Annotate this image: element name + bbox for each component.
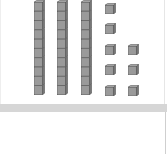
blocks-panel	[0, 0, 165, 104]
unit-cube-block	[105, 20, 116, 31]
unit-cube-block	[128, 61, 139, 72]
unit-cube-block	[105, 41, 116, 52]
tens-rod-block	[57, 0, 68, 94]
answer-input-area[interactable]	[0, 112, 166, 154]
tens-rod-block	[81, 0, 92, 94]
unit-cube-block	[128, 41, 139, 52]
unit-cube-block	[128, 82, 139, 93]
separator-band	[0, 104, 167, 112]
unit-cube-block	[105, 0, 116, 11]
unit-cube-block	[105, 61, 116, 72]
tens-rod-block	[34, 0, 45, 94]
unit-cube-block	[105, 82, 116, 93]
